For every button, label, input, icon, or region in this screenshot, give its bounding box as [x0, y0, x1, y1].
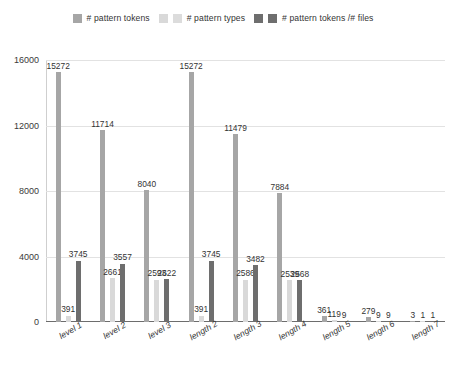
- bar-column: 15272: [56, 60, 61, 322]
- bar-group: 1147925863482: [223, 60, 267, 322]
- bar-column: 11479: [233, 60, 238, 322]
- bar-value-label: 3745: [202, 250, 221, 258]
- bar[interactable]: [120, 264, 125, 322]
- bar-column: 9: [376, 60, 381, 322]
- x-axis-label-cell: length 4: [268, 322, 312, 380]
- bar-column: 391: [66, 60, 71, 322]
- bar-value-label: 119: [327, 310, 340, 318]
- bar-column: 11714: [100, 60, 105, 322]
- legend-swatch-pattern-tokens-pair: [159, 14, 168, 23]
- x-axis-labels: level 1level 2level 3length 2length 3len…: [46, 322, 445, 380]
- y-axis-tick-label: 12000: [14, 121, 39, 131]
- bar-group: 804025932622: [135, 60, 179, 322]
- bar-column: 3745: [209, 60, 214, 322]
- bar-value-label: 2622: [157, 269, 176, 277]
- bar[interactable]: [243, 280, 248, 322]
- bar[interactable]: [287, 280, 292, 322]
- bar-column: 7884: [277, 60, 282, 322]
- bar-column: 9: [386, 60, 391, 322]
- bar-group-bars: 3611199: [312, 60, 356, 322]
- x-axis-tick-label: level 3: [146, 320, 173, 341]
- bar-group-bars: 1147925863482: [223, 60, 267, 322]
- bar-value-label: 3745: [69, 250, 88, 258]
- bar[interactable]: [164, 279, 169, 322]
- bar-value-label: 3557: [113, 253, 132, 261]
- legend-swatch-pattern-types-pair: [254, 14, 263, 23]
- bar-column: 1: [420, 60, 425, 322]
- bar[interactable]: [209, 261, 214, 322]
- bar-column: 391: [199, 60, 204, 322]
- bar-column: 361: [322, 60, 327, 322]
- bar[interactable]: [144, 190, 149, 322]
- y-axis-tick-label: 4000: [19, 252, 39, 262]
- bar-group-bars: 1171426613557: [90, 60, 134, 322]
- legend-item-tokens-per-files[interactable]: # pattern tokens /# files: [268, 13, 382, 23]
- bar[interactable]: [56, 72, 61, 322]
- bar[interactable]: [110, 278, 115, 322]
- legend-item-pattern-types[interactable]: # pattern types: [173, 13, 268, 23]
- bar-value-label: 391: [61, 305, 75, 313]
- bar-group-bars: 788425392568: [268, 60, 312, 322]
- legend-label-pattern-tokens: # pattern tokens: [87, 13, 150, 23]
- bar-column: 2568: [297, 60, 302, 322]
- bar[interactable]: [100, 130, 105, 322]
- x-axis-tick-label: length 6: [365, 318, 396, 342]
- bar-column: 279: [366, 60, 371, 322]
- bar-group: 152723913745: [46, 60, 90, 322]
- bar-value-label: 1: [420, 311, 425, 319]
- bar-column: 119: [332, 60, 337, 322]
- bar-group: 1171426613557: [90, 60, 134, 322]
- bar-column: 9: [342, 60, 347, 322]
- chart-legend: # pattern tokens # pattern types # patte…: [0, 13, 455, 23]
- bar-column: 2593: [154, 60, 159, 322]
- legend-swatch-pattern-types: [173, 14, 182, 23]
- legend-label-tokens-per-files: # pattern tokens /# files: [282, 13, 373, 23]
- bar-group: 27999: [356, 60, 400, 322]
- y-axis-tick-label: 0: [34, 317, 39, 327]
- bar-value-label: 3: [410, 311, 415, 319]
- x-axis-label-cell: length 2: [179, 322, 223, 380]
- x-axis-label-cell: length 3: [223, 322, 267, 380]
- x-axis-tick-label: length 4: [277, 318, 308, 342]
- bar-chart: # pattern tokens # pattern types # patte…: [0, 0, 455, 380]
- bar[interactable]: [297, 280, 302, 322]
- bar-group-bars: 152723913745: [46, 60, 90, 322]
- bar[interactable]: [233, 134, 238, 322]
- x-axis-label-cell: level 3: [135, 322, 179, 380]
- bar[interactable]: [76, 261, 81, 322]
- bar-group: 788425392568: [268, 60, 312, 322]
- bar-value-label: 9: [376, 311, 381, 319]
- x-axis-label-cell: length 6: [356, 322, 400, 380]
- bar[interactable]: [154, 280, 159, 322]
- bar-column: 2586: [243, 60, 248, 322]
- bar-group: 152723913745: [179, 60, 223, 322]
- x-axis-tick-label: length 3: [232, 318, 263, 342]
- bar-value-label: 3482: [246, 255, 265, 263]
- bar-column: 2539: [287, 60, 292, 322]
- bar-groups: 1527239137451171426613557804025932622152…: [46, 60, 445, 322]
- bar-value-label: 2568: [290, 270, 309, 278]
- x-axis-tick-label: length 2: [188, 318, 219, 342]
- bar-column: 3745: [76, 60, 81, 322]
- x-axis-label-cell: level 1: [46, 322, 90, 380]
- bar-group-bars: 27999: [356, 60, 400, 322]
- bar[interactable]: [189, 72, 194, 322]
- bar-column: 3557: [120, 60, 125, 322]
- legend-label-pattern-types: # pattern types: [187, 13, 245, 23]
- bar-value-label: 391: [194, 305, 208, 313]
- legend-item-pattern-tokens[interactable]: # pattern tokens: [73, 13, 173, 23]
- bar-group: 311: [401, 60, 445, 322]
- x-axis-label-cell: length 7: [401, 322, 445, 380]
- x-axis-tick-label: level 2: [102, 320, 129, 341]
- y-axis-tick-label: 16000: [14, 55, 39, 65]
- x-axis-label-cell: length 5: [312, 322, 356, 380]
- bar[interactable]: [277, 193, 282, 322]
- x-axis-label-cell: level 2: [90, 322, 134, 380]
- bar-value-label: 279: [361, 307, 375, 315]
- bar-column: 3: [410, 60, 415, 322]
- bar[interactable]: [253, 265, 258, 322]
- x-axis-tick-label: level 1: [57, 320, 84, 341]
- plot-area: 0400080001200016000 15272391374511714266…: [46, 60, 445, 322]
- bar-column: 8040: [144, 60, 149, 322]
- bar-value-label: 1: [430, 311, 435, 319]
